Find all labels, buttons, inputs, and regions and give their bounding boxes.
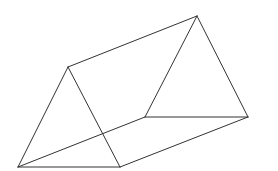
edge-front_bottom_right-back_bottom_right: [120, 117, 248, 167]
edge-front_bottom_left-back_bottom_left: [18, 117, 145, 167]
edge-back_top-back_bottom_right: [197, 16, 248, 117]
edge-front_top-front_bottom_left: [18, 67, 68, 167]
triangular-prism-diagram: [0, 0, 278, 171]
edge-back_top-back_bottom_left: [145, 16, 197, 117]
edge-front_top-front_bottom_right: [68, 67, 120, 167]
edge-front_top-back_top: [68, 16, 197, 67]
